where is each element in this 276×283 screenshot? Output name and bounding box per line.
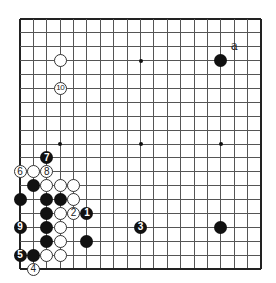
black-stone [214,54,227,67]
grid-line-vertical [260,19,262,269]
black-stone [27,179,40,192]
grid-line-vertical [234,19,235,269]
black-stone [14,193,27,206]
black-stone: 7 [40,151,53,164]
black-stone [40,221,53,234]
grid-line-horizontal [20,157,261,158]
white-stone: 8 [40,165,53,178]
white-stone [27,165,40,178]
white-stone [54,249,67,262]
grid-line-vertical [194,19,195,269]
star-point [139,142,143,146]
grid-line-vertical [153,19,154,269]
white-stone [54,235,67,248]
black-stone: 1 [80,207,93,220]
star-point [139,59,143,63]
black-stone [214,221,227,234]
grid-line-horizontal [20,171,261,172]
go-board: 10768219354a [0,0,276,283]
white-stone [40,249,53,262]
black-stone [40,193,53,206]
grid-line-vertical [167,19,168,269]
black-stone: 5 [14,249,27,262]
white-stone [54,221,67,234]
black-stone: 3 [134,221,147,234]
white-stone [40,179,53,192]
white-stone [67,179,80,192]
white-stone [54,179,67,192]
white-stone [54,54,67,67]
black-stone [40,207,53,220]
grid-line-vertical [180,19,181,269]
black-stone: 9 [14,221,27,234]
black-stone [40,235,53,248]
white-stone: 10 [54,82,67,95]
white-stone: 2 [67,207,80,220]
black-stone [54,193,67,206]
white-stone: 6 [14,165,27,178]
grid-line-vertical [207,19,208,269]
point-label: a [231,38,238,52]
white-stone [54,207,67,220]
grid-line-vertical [247,19,248,269]
star-point [219,142,223,146]
black-stone [80,235,93,248]
grid-line-horizontal [20,268,261,270]
white-stone: 4 [27,263,40,276]
white-stone [67,193,80,206]
black-stone [27,249,40,262]
star-point [58,142,62,146]
